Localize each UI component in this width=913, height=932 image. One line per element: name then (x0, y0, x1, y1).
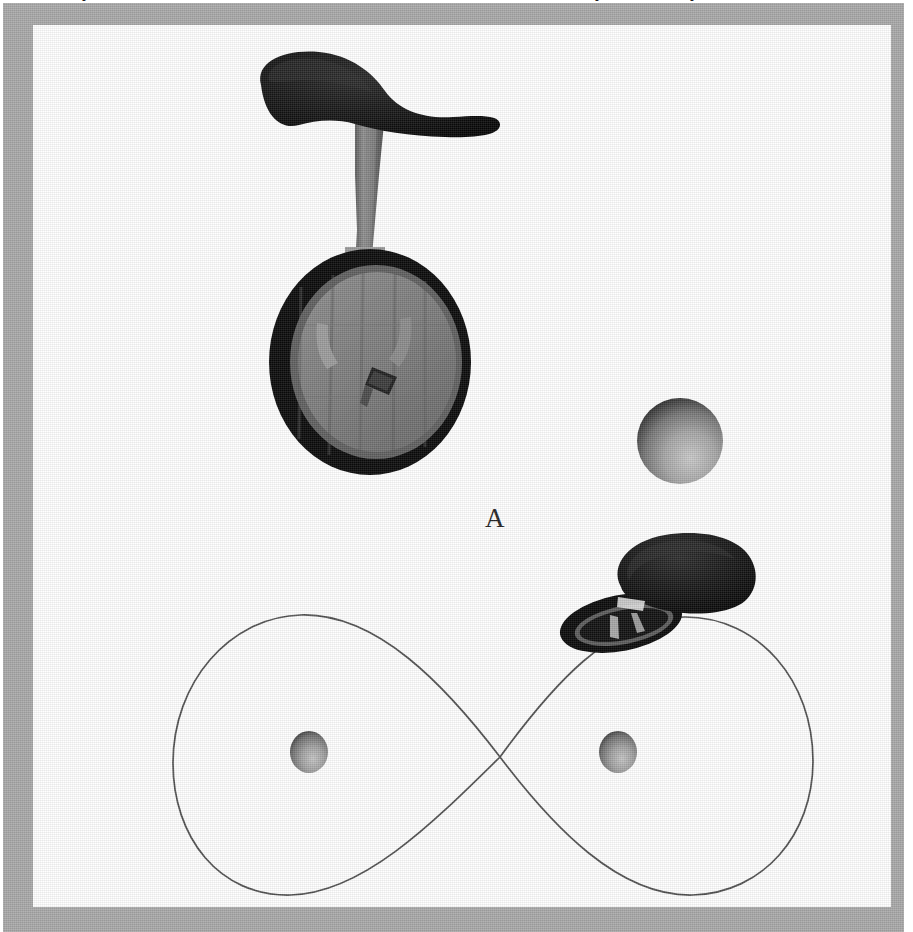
ball-sphere (637, 398, 723, 484)
seat-post (355, 113, 385, 267)
trajectory-path (173, 615, 813, 895)
marker-left-sphere (290, 731, 328, 773)
figure-root: y y y (0, 0, 913, 932)
saddle (260, 52, 500, 138)
figure-frame-border: A (3, 3, 904, 932)
wheel (269, 249, 471, 475)
unicycle-top-fork (610, 615, 619, 639)
panel-b-artwork (33, 505, 891, 907)
panel-b: B (33, 505, 891, 907)
unicycle-top-view (555, 533, 756, 662)
wheel-disc (298, 272, 456, 452)
panel-a: A (33, 25, 891, 525)
marker-right-sphere (599, 731, 637, 773)
panel-a-artwork (33, 25, 891, 525)
figure-canvas: A (33, 25, 891, 907)
